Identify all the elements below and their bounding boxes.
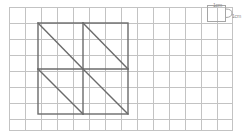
grid-lines xyxy=(9,7,233,131)
grid-paper xyxy=(9,7,233,131)
screenshot-root: 1cm 1cm xyxy=(0,0,247,138)
scale-label-side: 1cm xyxy=(232,14,241,19)
scale-label-top: 1cm xyxy=(213,3,222,8)
scale-key: 1cm 1cm xyxy=(205,0,245,26)
